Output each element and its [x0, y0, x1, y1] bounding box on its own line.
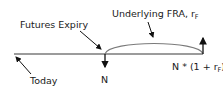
notional-in-close: ) [221, 61, 223, 72]
underlying-fra-label: Underlying FRA, rF [112, 9, 199, 21]
today-label: Today [30, 76, 57, 86]
futures-expiry-label: Futures Expiry [20, 20, 88, 30]
fra-period-arc [105, 44, 203, 55]
fra-futures-timeline-diagram: Futures Expiry Underlying FRA, rF Today … [0, 0, 223, 92]
today-pointer [16, 57, 31, 74]
underlying-fra-subscript: F [195, 13, 199, 21]
notional-in-label: N * (1 + rF) [172, 62, 223, 74]
notional-out-label: N [101, 75, 108, 85]
underlying-fra-pointer [148, 22, 153, 37]
futures-expiry-pointer [80, 31, 101, 49]
notional-in-text: N * (1 + r [172, 61, 218, 72]
underlying-fra-text: Underlying FRA, r [112, 8, 195, 19]
